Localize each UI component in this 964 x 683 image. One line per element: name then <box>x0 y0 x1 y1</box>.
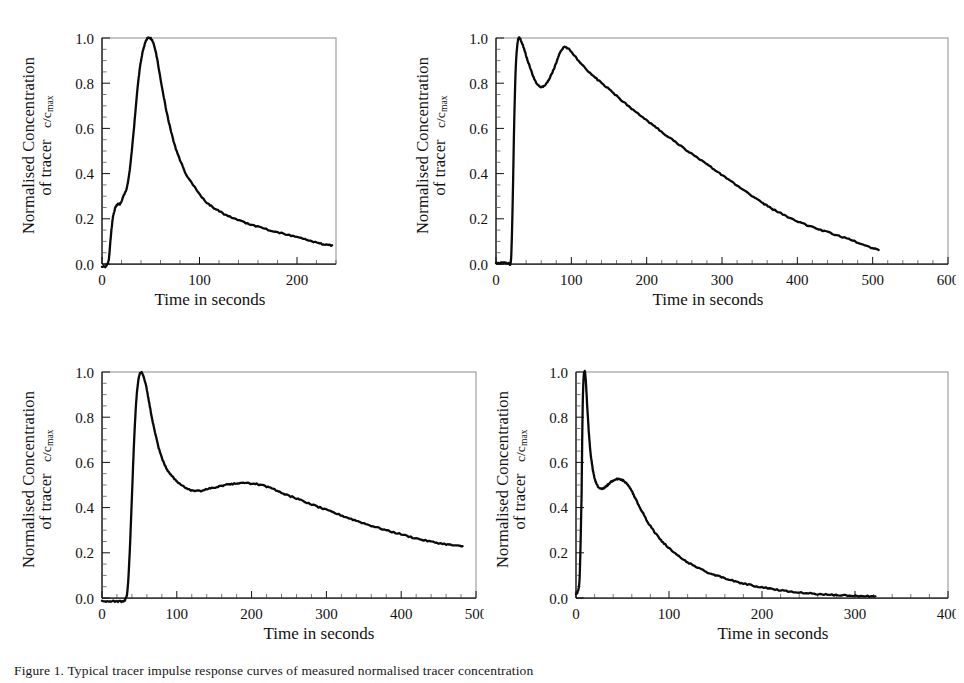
x-tick-label: 300 <box>711 272 734 288</box>
data-trace <box>102 372 463 602</box>
x-axis-label-bottom-right: Time in seconds <box>673 624 873 644</box>
y-tick-label: 0.8 <box>549 410 568 426</box>
figure-sheet: Normalised Concentration of tracer c/cma… <box>0 0 964 683</box>
chart-panel-top-left: Normalised Concentration of tracer c/cma… <box>14 18 344 318</box>
x-tick-label: 200 <box>286 272 309 288</box>
plot-bottom-left: 0.00.20.40.60.81.00100200300400500 <box>14 352 484 652</box>
y-tick-label: 0.0 <box>469 257 488 273</box>
plot-frame <box>496 38 948 264</box>
x-tick-label: 300 <box>315 606 338 622</box>
y-tick-label: 0.8 <box>75 76 94 92</box>
chart-panel-bottom-left: Normalised Concentration of tracer c/cma… <box>14 352 484 652</box>
y-tick-label: 1.0 <box>549 365 568 381</box>
x-tick-label: 600 <box>937 272 956 288</box>
y-tick-label: 0.4 <box>549 500 568 516</box>
x-tick-label: 0 <box>492 272 500 288</box>
x-tick-label: 200 <box>751 606 774 622</box>
plot-frame <box>102 38 336 264</box>
x-tick-label: 100 <box>166 606 189 622</box>
y-tick-label: 0.4 <box>75 500 94 516</box>
x-tick-label: 100 <box>188 272 211 288</box>
data-trace <box>496 37 879 265</box>
x-tick-label: 500 <box>861 272 884 288</box>
y-tick-label: 0.2 <box>469 211 488 227</box>
x-axis-label-top-left: Time in seconds <box>110 290 310 310</box>
y-tick-label: 0.0 <box>75 591 94 607</box>
y-tick-label: 0.6 <box>549 455 568 471</box>
x-tick-label: 200 <box>635 272 658 288</box>
y-tick-label: 0.0 <box>549 591 568 607</box>
y-tick-label: 1.0 <box>469 31 488 47</box>
y-tick-label: 0.4 <box>75 166 94 182</box>
y-tick-label: 0.6 <box>469 121 488 137</box>
y-tick-label: 1.0 <box>75 31 94 47</box>
chart-panel-bottom-right: Normalised Concentration of tracer c/cma… <box>488 352 956 652</box>
plot-top-left: 0.00.20.40.60.81.00100200 <box>14 18 344 318</box>
y-tick-label: 0.6 <box>75 455 94 471</box>
y-tick-label: 0.0 <box>75 257 94 273</box>
x-axis-label-top-right: Time in seconds <box>608 290 808 310</box>
x-tick-label: 200 <box>240 606 263 622</box>
figure-caption: Figure 1. Typical tracer impulse respons… <box>14 663 950 679</box>
y-tick-label: 0.8 <box>469 76 488 92</box>
y-tick-label: 0.2 <box>75 211 94 227</box>
x-tick-label: 400 <box>937 606 956 622</box>
x-tick-label: 0 <box>98 272 106 288</box>
x-axis-label-bottom-left: Time in seconds <box>219 624 419 644</box>
y-tick-label: 0.2 <box>75 545 94 561</box>
x-tick-label: 300 <box>844 606 867 622</box>
chart-panel-top-right: Normalised Concentration of tracer c/cma… <box>408 18 956 318</box>
y-tick-label: 1.0 <box>75 365 94 381</box>
x-tick-label: 400 <box>390 606 413 622</box>
plot-frame <box>102 372 476 598</box>
x-tick-label: 100 <box>658 606 681 622</box>
x-tick-label: 500 <box>465 606 484 622</box>
plot-frame <box>576 372 948 598</box>
data-trace <box>576 371 875 597</box>
y-tick-label: 0.2 <box>549 545 568 561</box>
x-tick-label: 0 <box>572 606 580 622</box>
x-tick-label: 0 <box>98 606 106 622</box>
plot-top-right: 0.00.20.40.60.81.00100200300400500600 <box>408 18 956 318</box>
y-tick-label: 0.4 <box>469 166 488 182</box>
x-tick-label: 400 <box>786 272 809 288</box>
x-tick-label: 100 <box>560 272 583 288</box>
plot-bottom-right: 0.00.20.40.60.81.00100200300400 <box>488 352 956 652</box>
data-trace <box>102 38 332 268</box>
y-tick-label: 0.6 <box>75 121 94 137</box>
y-tick-label: 0.8 <box>75 410 94 426</box>
